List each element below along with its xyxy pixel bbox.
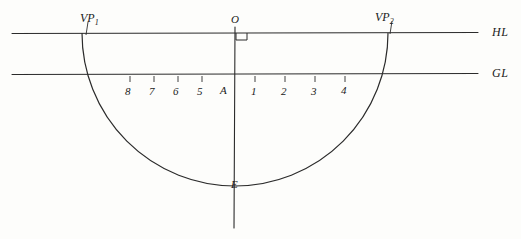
- vp1-text: VP: [80, 11, 95, 25]
- tick-label-7: 7: [149, 85, 155, 97]
- tick-label-5: 5: [197, 85, 203, 97]
- vertical-axis-line: [234, 27, 235, 228]
- ground-line: [12, 74, 478, 75]
- point-e-label: E: [231, 178, 238, 190]
- point-a-label: A: [220, 84, 227, 96]
- tick-label-8: 8: [125, 85, 131, 97]
- tick-label-6: 6: [173, 85, 179, 97]
- vp2-subscript: 2: [390, 17, 394, 26]
- measuring-tick-marks: [130, 76, 345, 82]
- tick-label-1: 1: [251, 85, 257, 97]
- ground-line-label: GL: [492, 66, 508, 81]
- vp1-subscript: 1: [95, 18, 99, 27]
- diagram-canvas: HL GL O E VP1 VP2 A 8 7 6 5 1 2 3 4: [0, 0, 521, 239]
- vp2-text: VP: [375, 10, 390, 24]
- right-angle-icon: [236, 33, 247, 40]
- vanishing-point-1-label: VP1: [80, 11, 99, 27]
- horizon-line-label: HL: [492, 25, 508, 40]
- tick-label-4: 4: [341, 84, 347, 96]
- tick-label-2: 2: [281, 85, 287, 97]
- diagram-lines: [0, 0, 521, 239]
- vanishing-point-2-label: VP2: [375, 10, 394, 26]
- point-o-label: O: [231, 13, 239, 25]
- tick-label-3: 3: [311, 85, 317, 97]
